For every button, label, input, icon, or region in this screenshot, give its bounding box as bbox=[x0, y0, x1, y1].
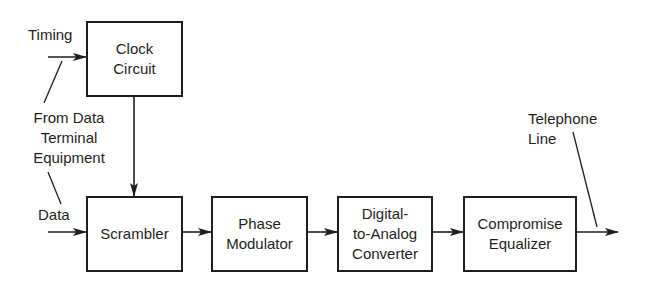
from-dte-label: From Data Terminal Equipment bbox=[14, 108, 124, 168]
dac-line-1: Digital- bbox=[352, 204, 418, 224]
clock-line-1: Clock bbox=[113, 39, 156, 59]
from-dte-line-2: Terminal bbox=[14, 128, 124, 148]
data-label: Data bbox=[38, 205, 70, 225]
telephone-line-label: Telephone Line bbox=[528, 109, 597, 149]
phase-modulator-block: Phase Modulator bbox=[211, 196, 308, 272]
timing-leader-line bbox=[44, 61, 62, 103]
dac-line-3: Converter bbox=[352, 244, 418, 264]
scrambler-block: Scrambler bbox=[86, 196, 183, 272]
phase-line-1: Phase bbox=[226, 214, 293, 234]
equalizer-line-2: Equalizer bbox=[477, 234, 562, 254]
telephone-line-1: Telephone bbox=[528, 109, 597, 129]
dac-line-2: to-Analog bbox=[352, 224, 418, 244]
equalizer-line-1: Compromise bbox=[477, 214, 562, 234]
data-leader-line bbox=[48, 172, 61, 204]
from-dte-line-3: Equipment bbox=[14, 148, 124, 168]
dac-block: Digital- to-Analog Converter bbox=[337, 196, 433, 272]
phase-line-2: Modulator bbox=[226, 234, 293, 254]
compromise-equalizer-block: Compromise Equalizer bbox=[463, 196, 577, 272]
clock-circuit-block: Clock Circuit bbox=[86, 21, 183, 97]
scrambler-label: Scrambler bbox=[100, 224, 168, 244]
telephone-line-2: Line bbox=[528, 129, 597, 149]
timing-label: Timing bbox=[28, 25, 72, 45]
clock-line-2: Circuit bbox=[113, 59, 156, 79]
from-dte-line-1: From Data bbox=[14, 108, 124, 128]
